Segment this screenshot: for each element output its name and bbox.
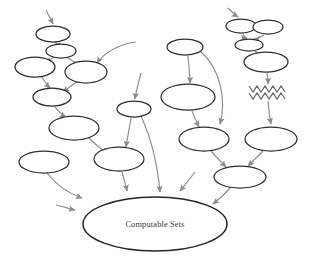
node-ellipse[interactable] (36, 26, 70, 42)
main-node-label: Computable Sets (125, 220, 184, 229)
node-ellipse[interactable] (245, 127, 297, 151)
node-ellipse[interactable] (46, 44, 76, 58)
node-ellipse[interactable] (117, 101, 151, 117)
edge-n7-main (47, 173, 82, 198)
edge-zigzag-n17 (268, 101, 271, 124)
node-ellipse[interactable] (33, 88, 71, 106)
diagram-canvas: Computable Sets (0, 0, 314, 274)
node-ellipse[interactable] (161, 84, 215, 110)
edge-n18-main (213, 187, 231, 204)
zigzag-scribble-node (249, 86, 285, 99)
node-ellipse[interactable] (235, 39, 263, 51)
edge-stub-right-main (180, 172, 195, 191)
node-ellipse[interactable] (19, 151, 69, 173)
edge-n10-n11 (188, 56, 190, 83)
edge-stub-left-main (56, 205, 75, 210)
edge-stub-n9 (135, 73, 141, 99)
main-node[interactable]: Computable Sets (83, 197, 227, 251)
edge-n9-n8 (126, 118, 131, 147)
node-ellipse[interactable] (94, 147, 144, 171)
edge-stub-top-left (46, 10, 53, 24)
edge-n8-main (122, 172, 127, 191)
node-ellipse[interactable] (253, 20, 283, 34)
edge-n11-n16 (192, 111, 199, 127)
edge-n9-main (141, 116, 160, 192)
node-ellipse[interactable] (65, 61, 107, 83)
edge-n17-n18 (248, 151, 263, 166)
edge-n3-n5 (41, 76, 50, 88)
node-ellipse[interactable] (179, 127, 229, 151)
graph-svg: Computable Sets (0, 0, 314, 274)
edge-stub-n12 (228, 8, 238, 17)
node-ellipse[interactable] (214, 166, 266, 188)
node-ellipse[interactable] (15, 57, 55, 77)
node-ellipse[interactable] (167, 39, 203, 55)
edge-n5-n6 (55, 107, 66, 117)
edge-n12-n14 (243, 34, 247, 38)
edge-right-to-n4 (97, 42, 136, 63)
edge-n15-zigzag (267, 73, 268, 84)
edge-n16-n18 (211, 151, 226, 167)
node-ellipse[interactable] (226, 19, 256, 33)
node-ellipse[interactable] (244, 52, 288, 72)
node-ellipse[interactable] (49, 116, 99, 140)
edge-n13-n14 (254, 35, 264, 39)
